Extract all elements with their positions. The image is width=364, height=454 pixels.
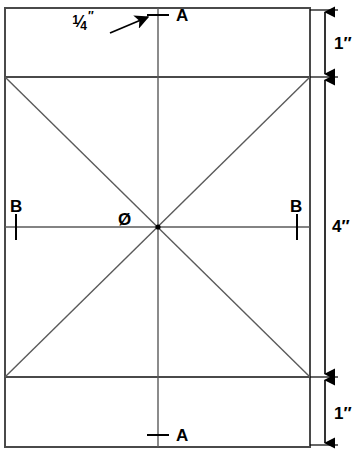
- dimension-label-bottom-band: 1″: [334, 405, 352, 422]
- drawing-canvas: [0, 0, 364, 454]
- point-label-a-bottom: A: [176, 427, 188, 444]
- dimension-label-top-band: 1″: [334, 35, 352, 52]
- fraction-one-quarter: 1⁄4: [72, 14, 88, 30]
- fraction-numerator: 1: [72, 13, 79, 27]
- quarter-inch-callout-label: 1⁄4″: [72, 12, 94, 30]
- dimension-label-middle-band: 4″: [332, 218, 350, 235]
- fraction-denominator: 4: [80, 19, 87, 33]
- inch-mark: ″: [88, 9, 94, 23]
- point-label-b-left: B: [10, 198, 22, 215]
- point-label-b-right: B: [290, 198, 302, 215]
- point-label-a-top: A: [176, 7, 188, 24]
- center-point-dot: [155, 224, 160, 229]
- center-diameter-symbol: Ø: [118, 211, 131, 228]
- technical-drawing: 1″ 4″ 1″ A A B B Ø 1⁄4″: [0, 0, 364, 454]
